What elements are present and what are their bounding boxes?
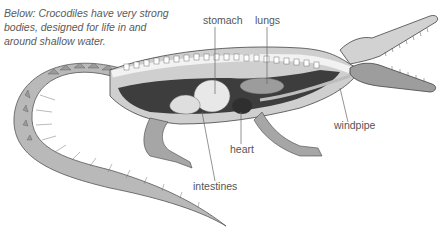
crocodile-lower-jaw bbox=[350, 63, 436, 92]
crocodile-front-leg bbox=[254, 112, 322, 156]
lungs-label: lungs bbox=[255, 14, 280, 26]
crocodile-upper-jaw bbox=[340, 15, 438, 64]
stomach-label: stomach bbox=[203, 14, 243, 26]
windpipe-label: windpipe bbox=[334, 119, 375, 131]
crocodile-anatomy-illustration bbox=[0, 0, 445, 234]
crocodile-hind-leg bbox=[144, 118, 192, 168]
lungs-organ bbox=[240, 78, 284, 94]
intestines-label: intestines bbox=[193, 180, 237, 192]
heart-organ bbox=[232, 98, 252, 114]
windpipe-leader-line bbox=[340, 88, 348, 122]
heart-label: heart bbox=[230, 143, 254, 155]
